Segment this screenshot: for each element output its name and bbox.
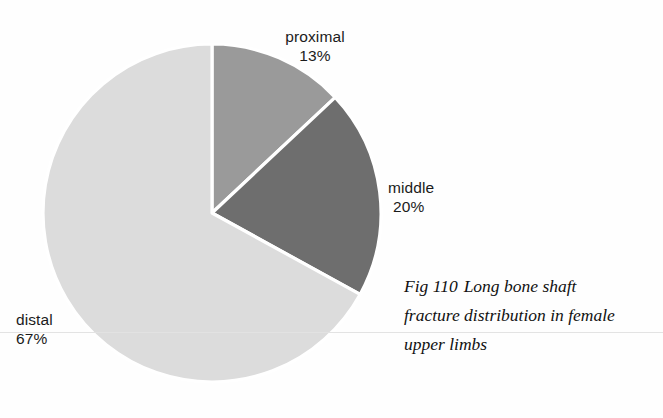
caption-line-3: upper limbs bbox=[404, 330, 654, 359]
pie-label-middle: middle 20% bbox=[388, 178, 468, 216]
caption-line-1: Fig 110Long bone shaft bbox=[404, 272, 654, 301]
caption-line-2: fracture distribution in female bbox=[404, 301, 654, 330]
pie-label-distal: distal 67% bbox=[16, 310, 96, 348]
figure-root: proximal 13% middle 20% distal 67% Fig 1… bbox=[0, 0, 663, 418]
pie-label-distal-value: 67% bbox=[16, 329, 96, 348]
pie-label-proximal: proximal 13% bbox=[269, 27, 361, 65]
caption-figure-number: Fig 110 bbox=[404, 276, 458, 296]
pie-label-proximal-name: proximal bbox=[269, 27, 361, 46]
pie-label-middle-value: 20% bbox=[388, 197, 468, 216]
caption-line-1-text: Long bone shaft bbox=[464, 276, 577, 296]
figure-caption: Fig 110Long bone shaft fracture distribu… bbox=[404, 272, 654, 359]
pie-label-distal-name: distal bbox=[16, 310, 96, 329]
pie-label-middle-name: middle bbox=[388, 178, 468, 197]
pie-label-proximal-value: 13% bbox=[269, 46, 361, 65]
